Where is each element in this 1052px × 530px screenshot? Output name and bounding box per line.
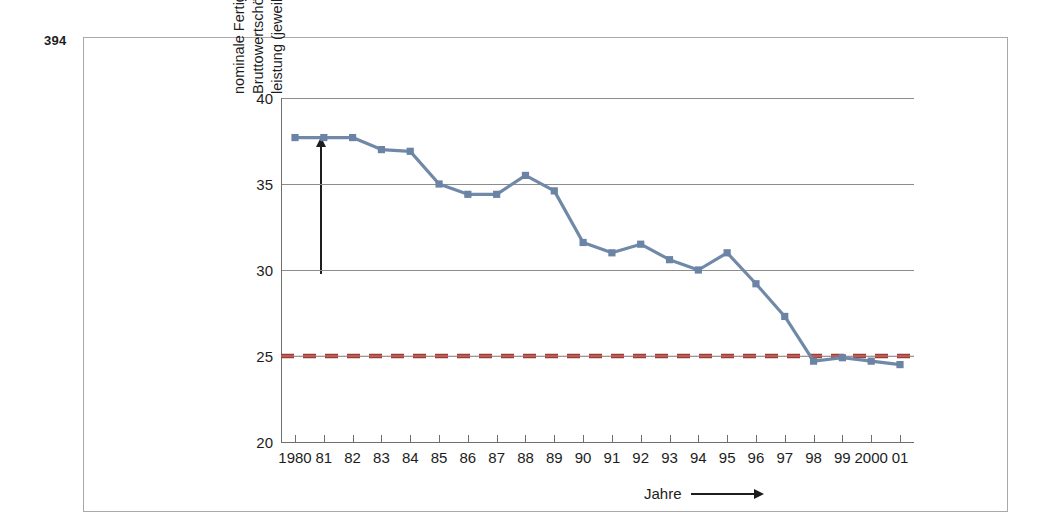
x-axis-title-label: Jahre (644, 485, 682, 502)
x-axis-tick-label: 96 (748, 449, 765, 466)
data-point-marker (637, 241, 644, 248)
y-axis-tick-label: 35 (256, 176, 273, 193)
data-point-marker (493, 191, 500, 198)
data-point-marker (695, 266, 702, 273)
x-axis-tick-label: 85 (431, 449, 448, 466)
data-point-marker (349, 134, 356, 141)
x-axis-tick-label: 97 (776, 449, 793, 466)
data-point-marker (580, 239, 587, 246)
plot-area: 2025303540198081828384858687888990919293… (281, 98, 914, 442)
x-axis-tick-label: 86 (460, 449, 477, 466)
data-point-marker (320, 134, 327, 141)
x-axis-arrow-icon (691, 493, 761, 495)
page-number: 394 (44, 33, 67, 48)
x-axis-tick-label: 87 (488, 449, 505, 466)
data-point-marker (291, 134, 298, 141)
x-axis-tick-label: 84 (402, 449, 419, 466)
data-point-marker (724, 249, 731, 256)
data-point-marker (435, 180, 442, 187)
y-axis-tick-label: 30 (256, 262, 273, 279)
figure-page: 394 nominale Fertigungstiefe: Anteil der… (0, 0, 1052, 530)
x-axis-tick-label: 92 (632, 449, 649, 466)
x-axis-tick-label: 98 (805, 449, 822, 466)
x-axis-tick-label: 1980 (278, 449, 311, 466)
x-axis-tick-label: 95 (719, 449, 736, 466)
series-layer (281, 98, 914, 442)
y-axis-title-line-2: Bruttowertschöpfung an der Gesamt- (249, 0, 268, 94)
y-axis-title-line-3: leistung (jeweils nominal) (268, 0, 287, 94)
data-line (295, 138, 900, 365)
x-axis-tick-label: 90 (575, 449, 592, 466)
data-point-marker (896, 361, 903, 368)
y-axis-title-line-1: nominale Fertigungstiefe: Anteil der (230, 0, 249, 94)
x-axis-tick-label: 88 (517, 449, 534, 466)
data-point-marker (551, 187, 558, 194)
x-axis-tick-label: 91 (604, 449, 621, 466)
data-point-marker (608, 249, 615, 256)
data-point-marker (781, 313, 788, 320)
x-axis-tick-label: 82 (344, 449, 361, 466)
data-point-marker (868, 358, 875, 365)
x-axis-tick-label: 94 (690, 449, 707, 466)
data-point-marker (407, 148, 414, 155)
x-axis-tick-label: 99 (834, 449, 851, 466)
x-axis-tick-label: 2000 (855, 449, 888, 466)
x-axis-title: Jahre (644, 485, 761, 502)
x-axis-tick-label: 93 (661, 449, 678, 466)
plot-wrapper: nominale Fertigungstiefe: Anteil der Bru… (84, 38, 1009, 513)
data-point-marker (810, 358, 817, 365)
figure-frame: nominale Fertigungstiefe: Anteil der Bru… (83, 37, 1008, 512)
x-axis-line (281, 442, 914, 443)
data-point-marker (378, 146, 385, 153)
data-point-marker (752, 280, 759, 287)
x-axis-tick-label: 83 (373, 449, 390, 466)
x-axis-tick-label: 81 (315, 449, 332, 466)
data-point-marker (522, 172, 529, 179)
y-axis-tick-label: 40 (256, 90, 273, 107)
y-axis-title: nominale Fertigungstiefe: Anteil der Bru… (230, 0, 290, 94)
x-axis-tick-label: 01 (892, 449, 909, 466)
data-point-marker (839, 354, 846, 361)
data-point-marker (666, 256, 673, 263)
x-axis-tick-label: 89 (546, 449, 563, 466)
y-axis-tick-label: 25 (256, 348, 273, 365)
data-point-marker (464, 191, 471, 198)
y-axis-tick-label: 20 (256, 434, 273, 451)
